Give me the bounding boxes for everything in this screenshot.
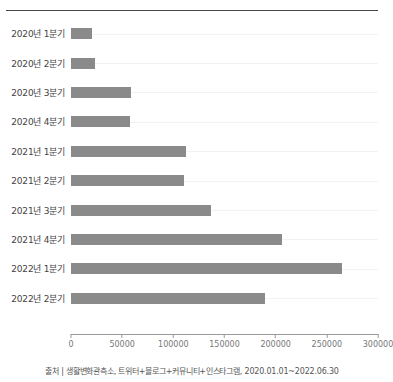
- bar: [71, 205, 211, 216]
- category-label: 2021년 3분기: [0, 204, 71, 217]
- tick-label: 150000: [209, 340, 240, 349]
- category-label: 2021년 1분기: [0, 145, 71, 158]
- tick-mark: [173, 334, 174, 338]
- source-note: 출처 | 생활변화관측소, 트위터+블로그+커뮤니티+인스타그램, 2020.0…: [0, 365, 384, 376]
- x-axis-tick: 100000: [158, 334, 189, 349]
- category-label: 2020년 2분기: [0, 57, 71, 70]
- tick-mark: [377, 334, 378, 338]
- bar-baseline: [71, 63, 378, 64]
- bar-row: 2021년 2분기: [0, 166, 378, 195]
- plot-area: 2020년 1분기2020년 2분기2020년 3분기2020년 4분기2021…: [0, 13, 384, 382]
- category-label: 2020년 4분기: [0, 115, 71, 128]
- x-axis: 050000100000150000200000250000300000: [71, 334, 378, 356]
- bar-row: 2020년 4분기: [0, 107, 378, 136]
- bar: [71, 146, 186, 157]
- bar: [71, 28, 92, 39]
- bar: [71, 175, 184, 186]
- bar-row: 2021년 4분기: [0, 225, 378, 254]
- bar-row: 2022년 1분기: [0, 254, 378, 283]
- category-label: 2020년 1분기: [0, 27, 71, 40]
- category-label: 2021년 4분기: [0, 233, 71, 246]
- bar-track: [71, 225, 378, 254]
- x-axis-tick: 150000: [209, 334, 240, 349]
- chart-title-area: [0, 0, 384, 9]
- category-label: 2022년 1분기: [0, 262, 71, 275]
- tick-label: 100000: [158, 340, 189, 349]
- tick-mark: [275, 334, 276, 338]
- bar-track: [71, 254, 378, 283]
- x-axis-tick: 50000: [109, 334, 134, 349]
- bar-row: 2022년 2분기: [0, 284, 378, 313]
- tick-mark: [122, 334, 123, 338]
- bar: [71, 234, 282, 245]
- tick-mark: [71, 334, 72, 338]
- tick-label: 250000: [312, 340, 343, 349]
- bar-track: [71, 284, 378, 313]
- bar-row: 2020년 1분기: [0, 19, 378, 48]
- bar-row: 2020년 2분기: [0, 48, 378, 77]
- bar-row: 2021년 3분기: [0, 195, 378, 224]
- x-axis-tick: 0: [68, 334, 73, 349]
- category-label: 2020년 3분기: [0, 86, 71, 99]
- bar: [71, 87, 131, 98]
- title-divider: [6, 10, 378, 11]
- tick-mark: [326, 334, 327, 338]
- x-axis-tick: 250000: [312, 334, 343, 349]
- tick-label: 50000: [109, 340, 134, 349]
- category-label: 2021년 2분기: [0, 174, 71, 187]
- bar: [71, 116, 130, 127]
- bar-baseline: [71, 34, 378, 35]
- bar-track: [71, 78, 378, 107]
- category-label: 2022년 2분기: [0, 292, 71, 305]
- tick-label: 200000: [260, 340, 291, 349]
- tick-mark: [224, 334, 225, 338]
- bar-track: [71, 19, 378, 48]
- bar-track: [71, 166, 378, 195]
- tick-label: 300000: [363, 340, 393, 349]
- bar-track: [71, 195, 378, 224]
- bar-track: [71, 107, 378, 136]
- x-axis-tick: 200000: [260, 334, 291, 349]
- x-axis-tick: 300000: [363, 334, 393, 349]
- bar: [71, 58, 95, 69]
- tick-label: 0: [68, 340, 73, 349]
- bar-row: 2021년 1분기: [0, 137, 378, 166]
- bar-track: [71, 137, 378, 166]
- bar-track: [71, 48, 378, 77]
- bar: [71, 263, 342, 274]
- bar: [71, 293, 265, 304]
- bar-rows: 2020년 1분기2020년 2분기2020년 3분기2020년 4분기2021…: [0, 19, 378, 313]
- bar-row: 2020년 3분기: [0, 78, 378, 107]
